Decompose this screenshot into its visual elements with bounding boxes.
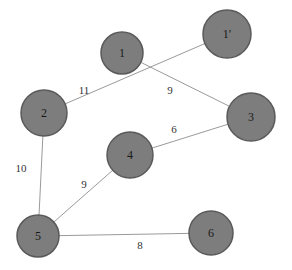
edge-weight-label: 9 <box>81 178 87 190</box>
edges-layer <box>38 34 251 236</box>
graph-node-1: 1 <box>101 32 143 74</box>
graph-diagram: 11961098 11′32456 <box>0 0 292 270</box>
graph-node-4: 4 <box>107 132 153 178</box>
node-label: 1 <box>119 46 125 60</box>
edge-5-6 <box>38 233 211 236</box>
graph-node-2: 2 <box>21 90 67 136</box>
graph-node-1p: 1′ <box>203 10 251 58</box>
node-label: 1′ <box>223 27 232 41</box>
edge-weight-label: 8 <box>137 239 143 251</box>
node-label: 5 <box>35 229 41 243</box>
edge-weight-label: 11 <box>79 84 90 96</box>
graph-node-6: 6 <box>189 211 233 255</box>
node-label: 4 <box>127 148 133 162</box>
edge-weight-label: 9 <box>167 84 173 96</box>
node-label: 6 <box>208 226 214 240</box>
edge-weight-label: 6 <box>171 123 177 135</box>
node-label: 2 <box>41 106 47 120</box>
edge-weight-label: 10 <box>16 162 28 174</box>
node-label: 3 <box>248 110 254 124</box>
graph-node-5: 5 <box>17 215 59 257</box>
graph-node-3: 3 <box>227 93 275 141</box>
